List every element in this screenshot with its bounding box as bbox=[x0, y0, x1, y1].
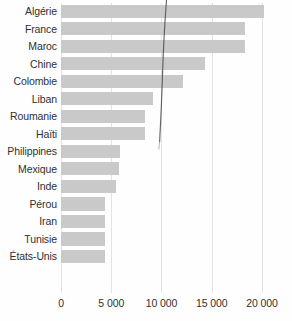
category-label: États-Unis bbox=[0, 248, 57, 266]
category-label: Mexique bbox=[0, 161, 57, 179]
bars bbox=[61, 3, 272, 293]
category-label: Iran bbox=[0, 213, 57, 231]
bar-maroc bbox=[61, 40, 245, 53]
x-tick-label: 20 000 bbox=[246, 296, 278, 310]
bar-alg-rie bbox=[61, 5, 264, 18]
bar-mexique bbox=[61, 162, 119, 175]
bar-row bbox=[61, 56, 272, 74]
category-axis-labels: AlgérieFranceMarocChineColombieLibanRoum… bbox=[0, 3, 57, 293]
x-tick-label: 10 000 bbox=[146, 296, 178, 310]
plot-area bbox=[61, 3, 272, 293]
x-tick-label: 5 000 bbox=[98, 296, 124, 310]
bar-row bbox=[61, 161, 272, 179]
category-label: Liban bbox=[0, 91, 57, 109]
bar-ha-ti bbox=[61, 127, 145, 140]
bar-row bbox=[61, 108, 272, 126]
bar-row bbox=[61, 231, 272, 249]
category-label: France bbox=[0, 21, 57, 39]
bar-iran bbox=[61, 215, 105, 228]
bar-row bbox=[61, 38, 272, 56]
bar-chart: AlgérieFranceMarocChineColombieLibanRoum… bbox=[0, 0, 292, 321]
category-label: Maroc bbox=[0, 38, 57, 56]
x-tick-label: 0 bbox=[58, 296, 64, 310]
category-label: Pérou bbox=[0, 196, 57, 214]
x-axis-tick-labels: 05 00010 00015 00020 000 bbox=[0, 296, 292, 314]
bar-chine bbox=[61, 57, 205, 70]
bar-row bbox=[61, 248, 272, 266]
bar-roumanie bbox=[61, 110, 145, 123]
bar-france bbox=[61, 22, 245, 35]
bar-row bbox=[61, 3, 272, 21]
category-label: Chine bbox=[0, 56, 57, 74]
bar-p-rou bbox=[61, 197, 105, 210]
bar-tunisie bbox=[61, 232, 105, 245]
category-label: Tunisie bbox=[0, 231, 57, 249]
bar-inde bbox=[61, 180, 116, 193]
bar-liban bbox=[61, 92, 153, 105]
bar-row bbox=[61, 73, 272, 91]
bar-colombie bbox=[61, 75, 183, 88]
category-label: Roumanie bbox=[0, 108, 57, 126]
bar-row bbox=[61, 91, 272, 109]
x-tick-label: 15 000 bbox=[196, 296, 228, 310]
category-label: Philippines bbox=[0, 143, 57, 161]
bar-philippines bbox=[61, 145, 120, 158]
bar-row bbox=[61, 178, 272, 196]
bar-row bbox=[61, 126, 272, 144]
category-label: Inde bbox=[0, 178, 57, 196]
bar--tats-unis bbox=[61, 250, 105, 263]
bar-row bbox=[61, 143, 272, 161]
category-label: Algérie bbox=[0, 3, 57, 21]
bar-row bbox=[61, 213, 272, 231]
bar-row bbox=[61, 196, 272, 214]
bar-row bbox=[61, 21, 272, 39]
category-label: Haïti bbox=[0, 126, 57, 144]
category-label: Colombie bbox=[0, 73, 57, 91]
